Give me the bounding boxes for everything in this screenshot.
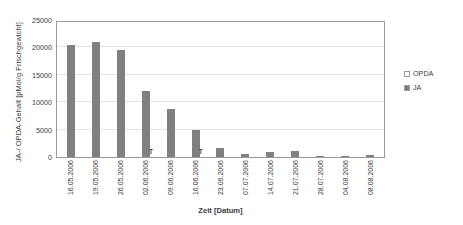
bar-group bbox=[283, 22, 308, 157]
x-axis-tick-label: 09.06.2006 bbox=[167, 160, 175, 195]
y-axis-tick-label: 0 bbox=[22, 154, 52, 162]
legend-item: OPDA bbox=[404, 68, 460, 80]
x-axis-tick-slot: 14.07.2006 bbox=[258, 160, 283, 208]
bar bbox=[241, 154, 249, 157]
y-axis-tick-label: 20000 bbox=[22, 44, 52, 52]
bar bbox=[266, 152, 274, 157]
error-bar-marker: T bbox=[199, 148, 203, 155]
x-axis-tick-slot: 09.06.2006 bbox=[158, 160, 183, 208]
legend-swatch bbox=[404, 71, 410, 77]
x-axis-tick-label: 28.07.2006 bbox=[317, 160, 325, 195]
bar-group bbox=[158, 22, 183, 157]
x-axis-tick-label: 02.06.2006 bbox=[142, 160, 150, 195]
bar-group: T bbox=[134, 22, 159, 157]
bar-chart: JA-/ OPDA-Gehalt [pMol/g Frischgewicht] … bbox=[0, 0, 463, 225]
bar-series-ja: TT bbox=[57, 22, 384, 157]
bar-group bbox=[307, 22, 332, 157]
x-axis-tick-slot: 02.06.2006 bbox=[133, 160, 158, 208]
bar bbox=[92, 42, 100, 157]
bar-group: T bbox=[183, 22, 208, 157]
legend-item: JA bbox=[404, 82, 460, 94]
bar-group bbox=[208, 22, 233, 157]
x-axis-tick-slot: 26.05.2006 bbox=[108, 160, 133, 208]
x-axis-tick-label: 19.05.2006 bbox=[92, 160, 100, 195]
error-bar-marker: T bbox=[149, 148, 153, 155]
bar-group bbox=[109, 22, 134, 157]
x-axis-tick-label: 21.07.2006 bbox=[292, 160, 300, 195]
bar bbox=[117, 50, 125, 157]
x-axis-tick-label: 04.08.2006 bbox=[342, 160, 350, 195]
bar-group bbox=[258, 22, 283, 157]
x-axis-tick-labels: 16.05.200619.05.200626.05.200602.06.2006… bbox=[56, 160, 385, 208]
legend-label: JA bbox=[413, 84, 421, 92]
bar bbox=[167, 109, 175, 157]
y-axis-tick-label: 25000 bbox=[22, 17, 52, 25]
bar-group bbox=[357, 22, 382, 157]
x-axis-tick-slot: 16.05.2006 bbox=[58, 160, 83, 208]
x-axis-tick-label: 26.05.2006 bbox=[117, 160, 125, 195]
x-axis-tick-label: 16.06.2006 bbox=[192, 160, 200, 195]
y-axis-tick-label: 5000 bbox=[22, 127, 52, 135]
y-axis-tick-label: 10000 bbox=[22, 99, 52, 107]
x-axis-tick-slot: 19.05.2006 bbox=[83, 160, 108, 208]
bar bbox=[366, 155, 374, 157]
x-axis-tick-slot: 08.08.2006 bbox=[358, 160, 383, 208]
x-axis-title: Zeit [Datum] bbox=[56, 206, 385, 215]
y-axis-tick-label: 15000 bbox=[22, 72, 52, 80]
chart-legend: OPDAJA bbox=[404, 68, 460, 96]
bar bbox=[216, 148, 224, 157]
bar bbox=[67, 45, 75, 157]
legend-label: OPDA bbox=[413, 70, 433, 78]
x-axis-tick-label: 07.07.2006 bbox=[242, 160, 250, 195]
y-axis-tick-labels: 0500010000150002000025000 bbox=[22, 0, 52, 225]
x-axis-tick-label: 08.08.2006 bbox=[367, 160, 375, 195]
x-axis-tick-slot: 28.07.2006 bbox=[308, 160, 333, 208]
bar-group bbox=[233, 22, 258, 157]
x-axis-tick-slot: 04.08.2006 bbox=[333, 160, 358, 208]
bar-group bbox=[332, 22, 357, 157]
bar bbox=[316, 156, 324, 157]
bar bbox=[291, 151, 299, 157]
x-axis-tick-slot: 07.07.2006 bbox=[233, 160, 258, 208]
bar-group bbox=[84, 22, 109, 157]
x-axis-tick-label: 23.06.2006 bbox=[217, 160, 225, 195]
plot-area: TT bbox=[56, 21, 385, 158]
x-axis-tick-label: 14.07.2006 bbox=[267, 160, 275, 195]
bar-group bbox=[59, 22, 84, 157]
x-axis-tick-slot: 16.06.2006 bbox=[183, 160, 208, 208]
bar bbox=[341, 156, 349, 157]
x-axis-tick-label: 16.05.2006 bbox=[67, 160, 75, 195]
legend-swatch bbox=[404, 85, 410, 91]
x-axis-tick-slot: 21.07.2006 bbox=[283, 160, 308, 208]
x-axis-tick-slot: 23.06.2006 bbox=[208, 160, 233, 208]
